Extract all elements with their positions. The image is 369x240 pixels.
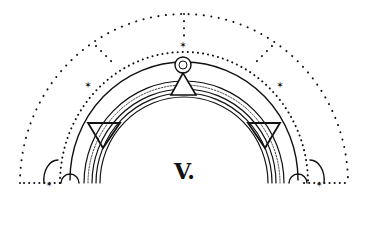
radial-dotted-line [252,46,272,66]
star-icon: ✶ [84,80,92,90]
diagram-label: V. [174,160,195,182]
radial-dotted-line [96,46,116,66]
star-icon: ✶ [276,80,284,90]
top-circle-marker [175,57,191,73]
star-icon: ✶ [46,180,53,189]
star-icon: ✶ [179,40,187,50]
star-icon: ✶ [316,180,323,189]
top-triangle [171,73,196,95]
